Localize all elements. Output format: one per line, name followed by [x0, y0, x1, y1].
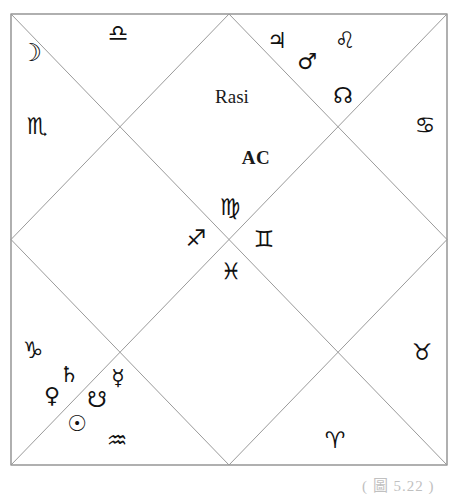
planet-glyph-moon: ☽ — [20, 40, 42, 65]
rasi-chart: ♎ ♏ ♐ ♑ ♒ ♓ ♈ ♉ ♊ ♋ ♌ ♍ ☽ ♃ ♂ ☊ ♄ ☿ ♀ ☋ … — [0, 0, 458, 494]
sign-glyph-capricorn: ♑ — [23, 339, 44, 362]
planet-glyph-jupiter: ♃ — [267, 30, 287, 52]
sign-glyph-pisces: ♓ — [221, 260, 242, 283]
figure-caption: ( 圖 5.22 ) — [362, 474, 458, 494]
planet-glyph-mars: ♂ — [297, 51, 317, 73]
sign-glyph-virgo: ♍ — [220, 196, 241, 219]
sign-glyph-sagittarius: ♐ — [186, 227, 207, 250]
chart-title: Rasi — [215, 87, 249, 106]
sign-glyph-aquarius: ♒ — [107, 429, 128, 452]
sign-glyph-aries: ♈ — [325, 429, 346, 452]
ascendant-mark: AC — [242, 148, 270, 167]
sign-glyph-scorpio: ♏ — [27, 115, 48, 138]
sign-glyph-libra: ♎ — [108, 22, 129, 45]
planet-glyph-sun: ☉ — [67, 413, 87, 435]
planet-glyph-venus: ♀ — [44, 385, 60, 407]
planet-glyph-ketu: ☋ — [87, 389, 107, 411]
sign-glyph-gemini: ♊ — [254, 228, 275, 251]
planet-glyph-rahu: ☊ — [333, 85, 353, 107]
planet-glyph-mercury: ☿ — [111, 367, 125, 389]
sign-glyph-cancer: ♋ — [415, 114, 436, 137]
sign-glyph-taurus: ♉ — [412, 341, 433, 364]
sign-glyph-leo: ♌ — [335, 29, 356, 52]
chart-label-layer: ♎ ♏ ♐ ♑ ♒ ♓ ♈ ♉ ♊ ♋ ♌ ♍ ☽ ♃ ♂ ☊ ♄ ☿ ♀ ☋ … — [0, 0, 458, 494]
planet-glyph-saturn: ♄ — [59, 364, 79, 386]
